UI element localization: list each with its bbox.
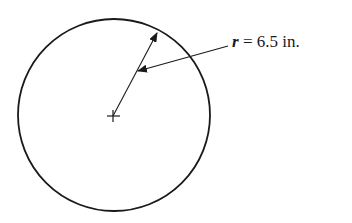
- radius-variable: r: [232, 32, 239, 51]
- equals-sign: =: [239, 32, 257, 51]
- radius-arrow: [113, 33, 157, 116]
- radius-unit: in.: [278, 32, 300, 51]
- leader-arrow: [138, 46, 228, 71]
- radius-value: 6.5: [257, 32, 278, 51]
- radius-label: r = 6.5 in.: [232, 32, 300, 52]
